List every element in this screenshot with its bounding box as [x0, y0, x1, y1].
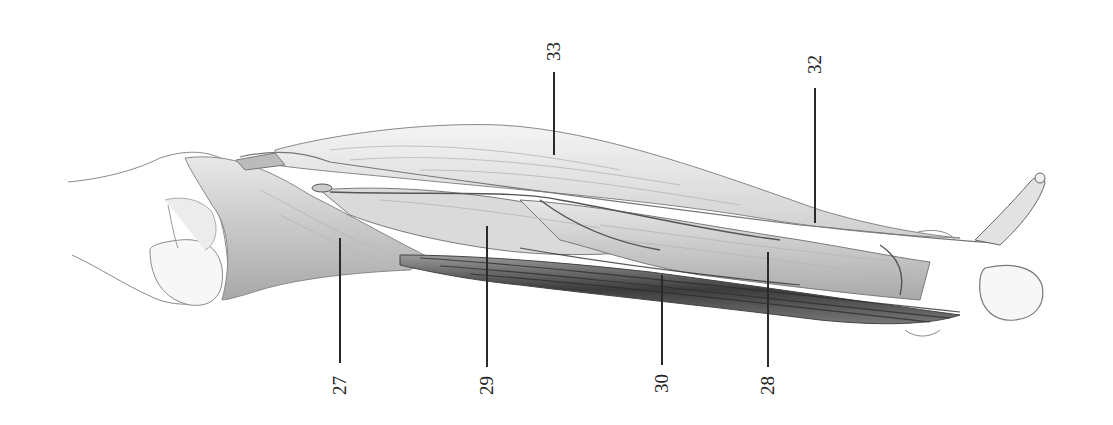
label-32: 32	[805, 55, 824, 74]
label-33: 33	[544, 42, 563, 61]
leader-line-33	[553, 72, 555, 155]
label-29: 29	[477, 376, 496, 395]
leader-line-32	[814, 88, 816, 223]
wrist-bone	[980, 265, 1043, 320]
label-30: 30	[652, 374, 671, 393]
leader-line-30	[661, 275, 663, 365]
label-28: 28	[758, 376, 777, 395]
leader-line-28	[767, 252, 769, 367]
leader-line-29	[486, 226, 488, 367]
leader-line-27	[339, 238, 341, 363]
anatomy-figure: 27 29 30 28 33 32	[0, 0, 1113, 425]
label-27: 27	[330, 376, 349, 395]
thumb-tendon	[975, 177, 1045, 245]
forearm-drawing	[0, 0, 1113, 425]
